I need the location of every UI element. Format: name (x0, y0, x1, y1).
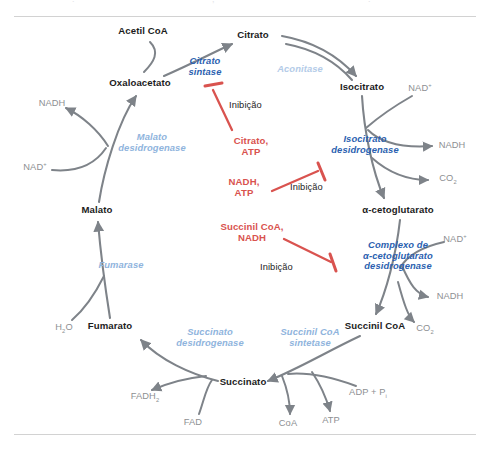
enzyme-line: Citrato (188, 56, 221, 67)
label-inibicao-citrato-sintase: Inibição (229, 100, 262, 110)
arrow-coa-out (282, 376, 290, 414)
label-nadh-malato-desidrogenase: NADH (39, 98, 66, 108)
enzyme-line: desidrogenase (331, 145, 398, 156)
label-enzyme-fumarase: Fumarase (98, 260, 143, 271)
label-nadh-complexo: NADH (437, 291, 464, 301)
enzyme-line: sintetase (280, 338, 339, 349)
krebs-cycle-figure: . · · , . (0, 0, 490, 457)
label-inhibitor-citrato-atp: Citrato, ATP (234, 136, 268, 157)
label-nad-plus-complexo: NAD+ (443, 234, 466, 244)
label-nad-plus-isocitrato-desidrogenase: NAD+ (408, 83, 431, 93)
label-enzyme-succinil-coa-sintetase: Succinil CoA sintetase (280, 327, 339, 348)
label-h2o-fumarase: H2O (55, 322, 72, 332)
label-enzyme-isocitrato-desidrogenase: Isocitrato desidrogenase (331, 134, 398, 155)
arrow-adp-pi-in (288, 374, 356, 386)
inhibitor-line: NADH (220, 233, 283, 244)
label-inhibitor-nadh-atp: NADH, ATP (229, 177, 260, 198)
arrow-co2-out-isocitrato (372, 158, 428, 180)
label-atp-succinil-coa-sintetase: ATP (322, 415, 340, 425)
arrow-fadh2-out (152, 376, 206, 390)
label-coa: CoA (279, 418, 297, 428)
label-alfa-cetoglutarato: α-cetoglutarato (362, 205, 433, 216)
label-enzyme-complexo-cetoglutarato-desidrogenase: Complexo de α-cetoglutarato desidrogenas… (363, 240, 433, 272)
inhibition-bar-isocitrato-desidrogenase (318, 163, 325, 180)
label-acetil-coa: Acetil CoA (118, 26, 168, 37)
enzyme-line: Aconitase (277, 64, 323, 75)
arrow-acetil-coa-in (144, 42, 155, 72)
inhibitor-line: ATP (234, 147, 268, 158)
label-fumarato: Fumarato (88, 321, 133, 332)
enzyme-line: Malato (118, 132, 185, 143)
arrow-nadh-out-malato (66, 108, 108, 146)
enzyme-line: Fumarase (98, 260, 143, 271)
label-malato: Malato (82, 205, 113, 216)
enzyme-line: Complexo de (363, 240, 433, 251)
inhibitor-line: ATP (229, 188, 260, 199)
inhibition-line-complexo (284, 239, 331, 262)
enzyme-line: desidrogenase (363, 261, 433, 272)
enzyme-line: desidrogenase (176, 338, 243, 349)
label-inibicao-complexo-cetoglutarato: Inibição (260, 262, 293, 272)
label-oxaloacetato: Oxaloacetato (109, 78, 170, 89)
arrow-nad-into-isocitrato-deh (366, 96, 412, 128)
arrow-fad-in (199, 380, 212, 414)
enzyme-line: sintase (188, 67, 221, 78)
label-inhibitor-succinil-coa-nadh: Succinil CoA, NADH (220, 222, 283, 243)
label-isocitrato: Isocitrato (340, 82, 384, 93)
label-adp-plus-pi: ADP + Pi (349, 387, 387, 397)
label-enzyme-malato-desidrogenase: Malato desidrogenase (118, 132, 185, 153)
label-fadh2: FADH2 (131, 391, 160, 401)
label-co2-isocitrato-desidrogenase: CO2 (439, 173, 456, 183)
enzyme-line: Isocitrato (331, 134, 398, 145)
label-nadh-isocitrato-desidrogenase: NADH (439, 140, 466, 150)
enzyme-line: Succinato (176, 327, 243, 338)
label-succinato: Succinato (220, 377, 267, 388)
label-enzyme-succinato-desidrogenase: Succinato desidrogenase (176, 327, 243, 348)
label-succinil-coa: Succinil CoA (345, 321, 405, 332)
label-enzyme-citrato-sintase: Citrato sintase (188, 56, 221, 77)
label-nad-plus-malato-desidrogenase: NAD+ (23, 162, 46, 172)
label-co2-complexo: CO2 (416, 323, 433, 333)
arrow-h2o-in (72, 276, 104, 320)
label-fad: FAD (184, 417, 202, 427)
enzyme-line: desidrogenase (118, 143, 185, 154)
arrow-nad-into-malato-deh (52, 148, 106, 170)
enzyme-line: Succinil CoA (280, 327, 339, 338)
inhibition-bar-citrato-sintase (205, 83, 222, 86)
label-enzyme-aconitase: Aconitase (277, 64, 323, 75)
label-inibicao-isocitrato-desidrogenase: Inibição (290, 182, 323, 192)
label-citrato: Citrato (237, 30, 269, 41)
arrow-co2-out-complexo (398, 282, 414, 322)
